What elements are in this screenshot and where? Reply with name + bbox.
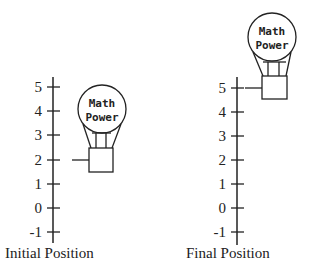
- tick-label: 2: [35, 152, 43, 168]
- tick-label: -1: [30, 224, 43, 240]
- caption-initial-position: Initial Position: [5, 245, 94, 261]
- balloon-text-line2: Power: [85, 111, 118, 124]
- final-position-panel: 5 4 3 2 1 0 -1 Math Power Final Position: [186, 13, 296, 261]
- balloon-text-line1: Math: [259, 25, 286, 38]
- tick-label: 5: [219, 80, 227, 96]
- tick-label: 0: [219, 200, 227, 216]
- tick-label: 4: [35, 103, 43, 119]
- tick-label: 4: [219, 104, 227, 120]
- initial-position-panel: 5 4 3 2 1 0 -1 Math Power Initial Positi…: [5, 77, 126, 261]
- tick-label: 0: [35, 200, 43, 216]
- caption-final-position: Final Position: [186, 245, 270, 261]
- balloon-text-line1: Math: [89, 97, 116, 110]
- tick-label: 3: [35, 127, 43, 143]
- tick-label: 1: [219, 176, 227, 192]
- balloon-text-line2: Power: [255, 39, 288, 52]
- tick-label: 5: [35, 79, 43, 95]
- diagram-canvas: 5 4 3 2 1 0 -1 Math Power Initial Positi…: [0, 0, 313, 273]
- tick-label: 3: [219, 128, 227, 144]
- tick-label: 2: [219, 152, 227, 168]
- tick-label: -1: [214, 224, 227, 240]
- tick-label: 1: [35, 176, 43, 192]
